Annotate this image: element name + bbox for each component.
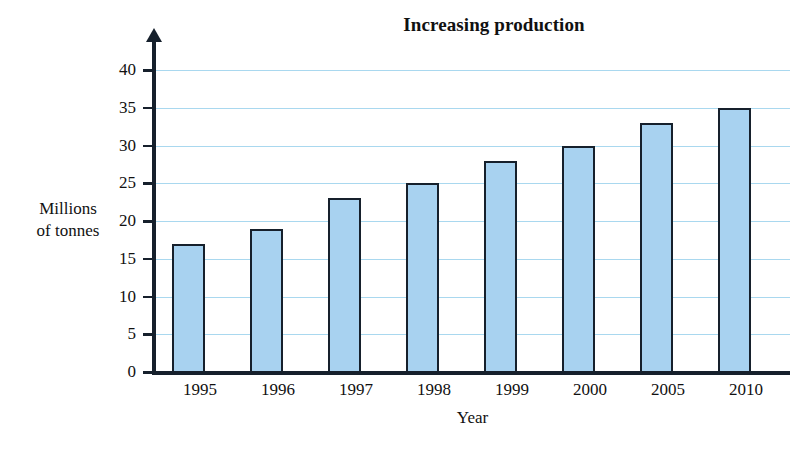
y-axis-tick: [143, 69, 153, 72]
y-axis-title-line-1: Millions: [18, 198, 118, 220]
bar[interactable]: [250, 229, 283, 372]
bar-slot: [317, 70, 395, 372]
y-axis-tick: [143, 333, 153, 336]
y-axis-tick-label: 15: [100, 250, 136, 267]
bar[interactable]: [406, 183, 439, 372]
x-axis-title: Year: [155, 408, 790, 428]
bar[interactable]: [718, 108, 751, 372]
bar-slot: [161, 70, 239, 372]
y-axis-tick-label: 10: [100, 288, 136, 305]
y-axis-tick-label-wrap: 40: [96, 61, 136, 78]
bar[interactable]: [328, 198, 361, 372]
y-axis-tick-label: 30: [100, 137, 136, 154]
y-axis-tick: [143, 182, 153, 185]
y-axis-tick: [143, 220, 153, 223]
chart-title: Increasing production: [0, 14, 808, 36]
plot-area: [155, 70, 790, 372]
y-axis-tick-label-wrap: 0: [96, 363, 136, 380]
x-axis-tick-label: 1996: [239, 380, 317, 400]
bar[interactable]: [484, 161, 517, 372]
bar-slot: [473, 70, 551, 372]
y-axis-tick-label: 40: [100, 61, 136, 78]
bar[interactable]: [640, 123, 673, 372]
y-axis-tick: [143, 145, 153, 148]
y-axis-tick-label: 25: [100, 174, 136, 191]
y-axis-tick: [143, 107, 153, 110]
x-axis-tick-label: 1995: [161, 380, 239, 400]
y-axis-tick-label-wrap: 5: [96, 325, 136, 342]
y-axis-title-line-2: of tonnes: [18, 220, 118, 242]
x-axis-tick-label: 2005: [629, 380, 707, 400]
y-axis-tick-label-wrap: 30: [96, 137, 136, 154]
bars-group: [155, 70, 790, 372]
y-axis-tick: [143, 371, 153, 374]
x-axis-tick-label: 1998: [395, 380, 473, 400]
y-axis-tick: [143, 296, 153, 299]
bar-slot: [551, 70, 629, 372]
y-axis-title: Millions of tonnes: [18, 198, 118, 242]
bar[interactable]: [172, 244, 205, 372]
x-axis-tick-label: 1997: [317, 380, 395, 400]
x-axis-tick-label: 1999: [473, 380, 551, 400]
y-axis-tick: [143, 258, 153, 261]
y-axis-tick-label: 35: [100, 99, 136, 116]
x-axis-line: [152, 371, 790, 375]
y-axis-line: [152, 38, 156, 374]
y-axis-tick-label-wrap: 15: [96, 250, 136, 267]
bar-slot: [239, 70, 317, 372]
y-axis-tick-label: 0: [100, 363, 136, 380]
y-axis-tick-label-wrap: 35: [96, 99, 136, 116]
x-axis-tick-label: 2000: [551, 380, 629, 400]
y-axis-tick-label: 5: [100, 325, 136, 342]
x-axis-tick-label: 2010: [707, 380, 785, 400]
bar-slot: [395, 70, 473, 372]
bar-slot: [707, 70, 785, 372]
y-axis-tick-label-wrap: 10: [96, 288, 136, 305]
bar[interactable]: [562, 146, 595, 373]
bar-slot: [629, 70, 707, 372]
y-axis-tick-label-wrap: 25: [96, 174, 136, 191]
bar-chart: Increasing production 0510152025303540 1…: [0, 0, 808, 452]
